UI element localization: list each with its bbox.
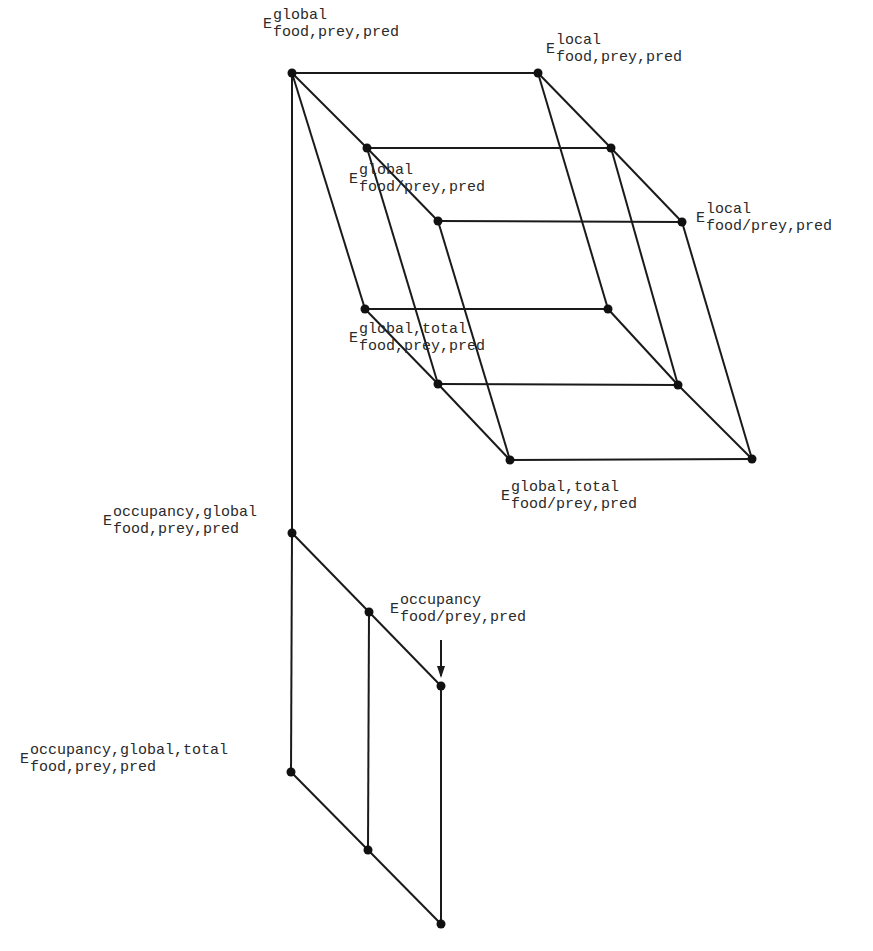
node-J: [604, 305, 613, 314]
edge-N-Q: [368, 612, 369, 850]
label-occupancy-global: Eoccupancy,globalfood,prey,pred: [103, 505, 257, 537]
edge-M-P: [291, 533, 292, 772]
node-D: [361, 305, 370, 314]
node-O: [437, 682, 446, 691]
label-local-food-prey-pred: Elocalfood,prey,pred: [546, 33, 682, 65]
node-A: [288, 69, 297, 78]
label-global-total-food-prey-pred: Eglobal,totalfood,prey,pred: [349, 322, 485, 354]
node-M: [288, 529, 297, 538]
node-G: [534, 69, 543, 78]
label-global-food-prey-pred: Eglobalfood,prey,pred: [263, 8, 399, 40]
node-P: [287, 768, 296, 777]
edge-M-N: [292, 533, 369, 612]
node-R: [437, 920, 446, 929]
node-C: [434, 217, 443, 226]
node-H: [607, 144, 616, 153]
node-L: [748, 455, 757, 464]
lattice-diagram: [0, 0, 873, 951]
node-N: [365, 608, 374, 617]
node-F: [506, 456, 515, 465]
node-I: [678, 218, 687, 227]
edge-C-I: [438, 221, 682, 222]
edge-Q-R: [368, 850, 441, 924]
label-global-total-food-slash-prey-pred: Eglobal,totalfood/prey,pred: [501, 480, 637, 512]
arrow-icon: [437, 640, 445, 678]
node-B: [363, 144, 372, 153]
node-K: [674, 381, 683, 390]
node-Q: [364, 846, 373, 855]
label-occupancy-global-total: Eoccupancy,global,totalfood,prey,pred: [20, 743, 228, 775]
node-E: [434, 380, 443, 389]
edge-F-L: [510, 459, 752, 460]
edge-P-Q: [291, 772, 368, 850]
label-occupancy: Eoccupancyfood/prey,pred: [390, 593, 526, 625]
label-global-food-slash-prey-pred: Eglobalfood/prey,pred: [349, 163, 485, 195]
edge-E-K: [438, 384, 678, 385]
label-local-food-slash-prey-pred: Elocalfood/prey,pred: [696, 202, 832, 234]
